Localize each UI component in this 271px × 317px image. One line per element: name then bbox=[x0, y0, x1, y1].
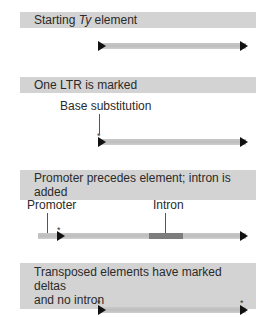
transposed-element-bar bbox=[98, 307, 246, 313]
panel-1-title-italic: Ty bbox=[79, 13, 91, 27]
panel-4-title-line-1: Transposed elements have marked deltas bbox=[34, 265, 256, 293]
ty-element-bar bbox=[98, 43, 246, 49]
ltr-right-arrow-icon bbox=[240, 41, 248, 51]
panel-2-title: One LTR is marked bbox=[34, 78, 137, 92]
panel-1-title-pre: Starting bbox=[34, 13, 79, 27]
intron-segment bbox=[149, 233, 183, 239]
panel-4-title-line-2: and no intron bbox=[34, 293, 256, 307]
ltr-left-arrow-icon bbox=[57, 231, 65, 241]
promoter-pointer-line bbox=[47, 213, 48, 234]
marked-element-bar bbox=[98, 139, 246, 145]
ltr-left-arrow-icon bbox=[98, 137, 106, 147]
promoter-element-bar bbox=[38, 233, 246, 239]
intron-pointer-line bbox=[165, 213, 166, 234]
panel-2-header: One LTR is marked bbox=[20, 77, 256, 93]
panel-3-title: Promoter precedes element; intron is add… bbox=[34, 171, 231, 199]
panel-1-header: Starting Ty element bbox=[20, 12, 256, 28]
panel-1-title-post: element bbox=[91, 13, 137, 27]
base-substitution-label: Base substitution bbox=[60, 99, 151, 113]
ltr-right-arrow-icon bbox=[240, 137, 248, 147]
promoter-label: Promoter bbox=[27, 198, 76, 212]
panel-4-header: Transposed elements have marked deltas a… bbox=[20, 263, 256, 309]
ltr-left-arrow-icon bbox=[98, 305, 106, 315]
ltr-left-arrow-icon bbox=[98, 41, 106, 51]
ltr-right-arrow-icon bbox=[240, 231, 248, 241]
intron-label: Intron bbox=[153, 198, 184, 212]
ltr-right-arrow-icon bbox=[240, 305, 248, 315]
panel-3-header: Promoter precedes element; intron is add… bbox=[20, 170, 256, 200]
